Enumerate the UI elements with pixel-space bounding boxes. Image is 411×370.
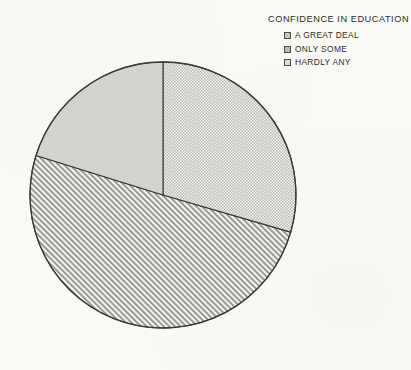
legend-item-a-great-deal[interactable]: A GREAT DEAL bbox=[284, 30, 408, 41]
legend-swatch-hardly-any bbox=[284, 59, 291, 66]
legend-swatch-a-great-deal bbox=[284, 32, 291, 39]
legend-item-only-some[interactable]: ONLY SOME bbox=[284, 44, 408, 55]
legend-title: CONFIDENCE IN EDUCATION bbox=[268, 14, 408, 25]
legend-swatch-only-some bbox=[284, 46, 291, 53]
legend-label-hardly-any: HARDLY ANY bbox=[295, 58, 351, 67]
legend-label-only-some: ONLY SOME bbox=[295, 45, 347, 54]
legend-item-hardly-any[interactable]: HARDLY ANY bbox=[284, 57, 408, 68]
page-root: CONFIDENCE IN EDUCATION A GREAT DEAL ONL… bbox=[0, 0, 411, 370]
legend-label-a-great-deal: A GREAT DEAL bbox=[295, 31, 359, 40]
legend: CONFIDENCE IN EDUCATION A GREAT DEAL ONL… bbox=[268, 14, 408, 71]
